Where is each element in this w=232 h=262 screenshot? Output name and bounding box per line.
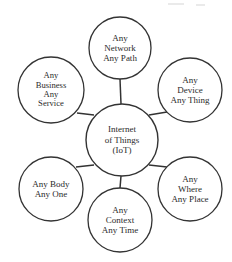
diagram-canvas xyxy=(0,0,232,262)
node-circle-any-network-any-path[interactable] xyxy=(89,17,151,79)
connector-upper-right xyxy=(149,112,167,115)
connector-lower-left xyxy=(76,165,94,167)
node-circle-any-business-any-service[interactable] xyxy=(18,57,84,123)
scan-artifact-speck xyxy=(196,4,205,6)
connector-lower-right xyxy=(149,165,167,167)
node-circle-any-body-any-one[interactable] xyxy=(19,157,83,221)
connector-bottom xyxy=(120,176,121,188)
node-circle-internet-of-things[interactable] xyxy=(86,104,158,176)
connector-upper-left xyxy=(77,113,94,115)
node-circle-any-device-any-thing[interactable] xyxy=(158,58,222,122)
node-circle-any-context-any-time[interactable] xyxy=(88,188,152,252)
circle-layer xyxy=(18,17,222,252)
scan-artifact-speck xyxy=(168,3,184,5)
node-circle-any-where-any-place[interactable] xyxy=(158,157,222,221)
iot-concept-diagram: AnyNetworkAny PathAnyDeviceAny ThingAnyW… xyxy=(0,0,232,262)
connector-top xyxy=(120,79,121,104)
